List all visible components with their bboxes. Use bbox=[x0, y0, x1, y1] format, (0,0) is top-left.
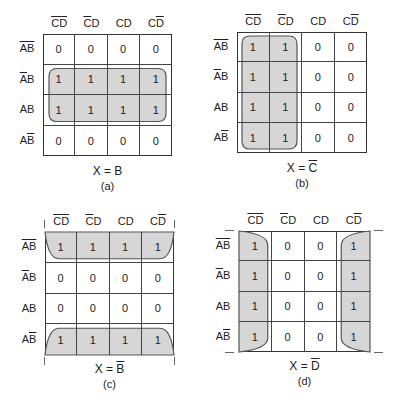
column-header: CD bbox=[305, 214, 338, 226]
kmap-label: (b) bbox=[252, 177, 352, 189]
wrap-tick bbox=[44, 357, 45, 365]
kmap-cell: 0 bbox=[305, 322, 338, 352]
kmap-cell: 0 bbox=[77, 263, 109, 294]
kmap-cell: 0 bbox=[305, 261, 338, 291]
column-header: CD bbox=[337, 214, 370, 226]
column-header-label: CD bbox=[85, 215, 101, 227]
column-header-label: CD bbox=[51, 17, 67, 29]
kmap-cell: 1 bbox=[239, 322, 272, 352]
wrap-tick bbox=[44, 220, 45, 228]
column-header: CD bbox=[270, 15, 303, 27]
kmap-cell: 1 bbox=[337, 292, 370, 322]
row-header: AB bbox=[211, 330, 235, 342]
row-header-label: AB bbox=[216, 300, 231, 312]
kmap-cell: 1 bbox=[77, 324, 109, 355]
column-header: CD bbox=[140, 17, 172, 29]
row-header: AB bbox=[17, 240, 41, 252]
kmap-cell: 1 bbox=[140, 65, 172, 96]
kmap-cell: 1 bbox=[142, 324, 174, 355]
column-header-label: CD bbox=[343, 15, 359, 27]
row-header: AB bbox=[15, 42, 39, 54]
kmap-cell: 0 bbox=[108, 34, 140, 65]
kmap-cell: 1 bbox=[270, 62, 303, 92]
row-header: AB bbox=[211, 239, 235, 251]
kmap-cell: 1 bbox=[237, 93, 270, 123]
kmap-cell: 1 bbox=[140, 95, 172, 126]
row-header-label: AB bbox=[20, 134, 35, 146]
column-header: CD bbox=[272, 214, 305, 226]
kmap-expression: X = D bbox=[255, 359, 355, 373]
kmap-cell: 1 bbox=[108, 65, 140, 96]
column-header: CD bbox=[45, 215, 77, 227]
row-header-label: AB bbox=[20, 103, 35, 115]
kmap-cell: 0 bbox=[45, 294, 77, 325]
kmap-label: (a) bbox=[58, 180, 158, 192]
kmap-cell: 0 bbox=[302, 62, 335, 92]
kmap-cell: 1 bbox=[337, 322, 370, 352]
row-header: AB bbox=[15, 73, 39, 85]
kmap-cell: 1 bbox=[337, 261, 370, 291]
column-header: CD bbox=[108, 17, 140, 29]
kmap-cell: 1 bbox=[239, 292, 272, 322]
wrap-tick bbox=[174, 220, 175, 228]
row-header: AB bbox=[209, 40, 233, 52]
row-header: AB bbox=[15, 103, 39, 115]
row-header-label: AB bbox=[22, 240, 37, 252]
kmap-cell: 0 bbox=[305, 292, 338, 322]
row-header-label: AB bbox=[20, 73, 35, 85]
kmap-label: (c) bbox=[60, 378, 160, 390]
wrap-tick bbox=[225, 230, 234, 231]
kmap-expression: X = B bbox=[58, 164, 158, 178]
kmap-cell: 0 bbox=[335, 62, 368, 92]
kmap-cell: 0 bbox=[302, 93, 335, 123]
kmap-cell: 1 bbox=[45, 232, 77, 263]
row-header: AB bbox=[17, 302, 41, 314]
kmap-cell: 1 bbox=[237, 62, 270, 92]
kmap-cell: 1 bbox=[239, 261, 272, 291]
kmap-cell: 0 bbox=[140, 126, 172, 157]
kmap-cell: 0 bbox=[335, 32, 368, 62]
kmap-cell: 1 bbox=[237, 32, 270, 62]
column-header-label: CD bbox=[245, 15, 261, 27]
column-header-label: CD bbox=[150, 215, 166, 227]
column-header-label: CD bbox=[278, 15, 294, 27]
row-header-label: AB bbox=[216, 239, 231, 251]
kmap-cell: 1 bbox=[270, 93, 303, 123]
kmap-cell: 1 bbox=[77, 232, 109, 263]
kmap-cell: 0 bbox=[272, 261, 305, 291]
kmap-cell: 0 bbox=[302, 32, 335, 62]
kmap-cell: 1 bbox=[43, 65, 75, 96]
kmap-cell: 1 bbox=[337, 231, 370, 261]
column-header: CD bbox=[75, 17, 107, 29]
kmap-cell: 0 bbox=[43, 34, 75, 65]
kmap-cell: 1 bbox=[45, 324, 77, 355]
row-header: AB bbox=[211, 300, 235, 312]
column-header-label: CD bbox=[313, 214, 329, 226]
row-header-label: AB bbox=[214, 131, 229, 143]
kmap-cell: 0 bbox=[110, 294, 142, 325]
row-header: AB bbox=[15, 134, 39, 146]
kmap-cell: 0 bbox=[302, 123, 335, 153]
column-header-label: CD bbox=[280, 214, 296, 226]
wrap-tick bbox=[225, 352, 234, 353]
kmap-cell: 1 bbox=[110, 324, 142, 355]
row-header-label: AB bbox=[20, 42, 35, 54]
kmap-cell: 0 bbox=[335, 93, 368, 123]
column-header: CD bbox=[237, 15, 270, 27]
kmap-cell: 0 bbox=[45, 263, 77, 294]
kmap-cell: 0 bbox=[140, 34, 172, 65]
kmap-cell: 1 bbox=[237, 123, 270, 153]
column-header-label: CD bbox=[310, 15, 326, 27]
kmap-cell: 1 bbox=[110, 232, 142, 263]
row-header: AB bbox=[209, 101, 233, 113]
kmap-cell: 1 bbox=[108, 95, 140, 126]
row-header-label: AB bbox=[214, 101, 229, 113]
column-header: CD bbox=[302, 15, 335, 27]
row-header-label: AB bbox=[216, 269, 231, 281]
kmap-cell: 0 bbox=[75, 126, 107, 157]
kmap-cell: 0 bbox=[142, 294, 174, 325]
wrap-tick bbox=[174, 357, 175, 365]
row-header-label: AB bbox=[22, 302, 37, 314]
kmap-cell: 0 bbox=[305, 231, 338, 261]
kmap-label: (d) bbox=[255, 375, 355, 387]
